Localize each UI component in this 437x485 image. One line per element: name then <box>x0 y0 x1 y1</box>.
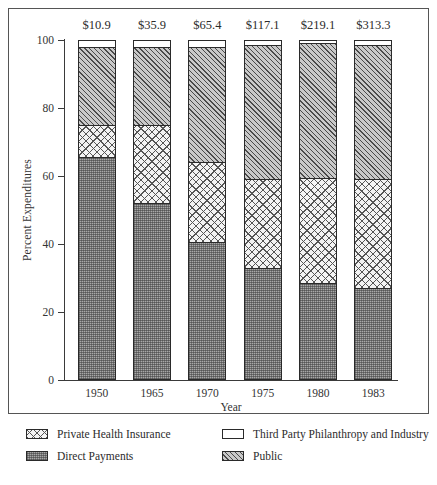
legend-swatch-third <box>222 429 244 439</box>
y-axis-tick: 100 <box>58 40 65 41</box>
bar-segment-private[interactable] <box>188 162 226 242</box>
bar-total-label: $313.3 <box>340 18 406 33</box>
bar-1980[interactable]: $219.11980 <box>299 40 337 380</box>
plot-area: 020406080100 $10.91950$35.91965$65.41970… <box>65 40 397 380</box>
bar-1950[interactable]: $10.91950 <box>78 40 116 380</box>
legend-swatch-public <box>222 451 244 461</box>
bar-segment-third[interactable] <box>188 40 226 47</box>
y-axis-tick-label: 80 <box>43 102 55 114</box>
bar-segment-third[interactable] <box>133 40 171 47</box>
y-axis-tick-label: 40 <box>43 238 55 250</box>
legend-swatch-private <box>26 429 48 439</box>
bar-segment-public[interactable] <box>133 47 171 125</box>
bar-segment-direct[interactable] <box>78 157 116 380</box>
bar-segment-third[interactable] <box>244 40 282 45</box>
bar-1965[interactable]: $35.91965 <box>133 40 171 380</box>
chart-frame: Percent Expenditures 020406080100 $10.91… <box>8 8 429 414</box>
bar-segment-direct[interactable] <box>354 288 392 380</box>
bar-1975[interactable]: $117.11975 <box>244 40 282 380</box>
bar-segment-third[interactable] <box>78 40 116 47</box>
bar-segment-private[interactable] <box>354 179 392 288</box>
bar-segment-direct[interactable] <box>299 283 337 380</box>
bar-segment-private[interactable] <box>299 178 337 283</box>
y-axis-tick: 80 <box>58 108 65 109</box>
bar-segment-direct[interactable] <box>188 242 226 380</box>
legend-label: Public <box>253 450 282 462</box>
bar-segment-third[interactable] <box>299 40 337 43</box>
legend-label: Direct Payments <box>57 450 133 462</box>
bar-segment-public[interactable] <box>78 47 116 125</box>
y-axis-tick-label: 100 <box>37 34 54 46</box>
bar-segment-public[interactable] <box>299 43 337 177</box>
bar-segment-third[interactable] <box>354 40 392 45</box>
y-axis-tick: 20 <box>58 312 65 313</box>
y-axis-tick: 40 <box>58 244 65 245</box>
y-axis-tick: 60 <box>58 176 65 177</box>
legend-column-left: Private Health InsuranceDirect Payments <box>26 425 171 469</box>
y-axis-tick-label: 20 <box>43 306 55 318</box>
bar-segment-private[interactable] <box>78 125 116 157</box>
bar-segment-public[interactable] <box>354 45 392 179</box>
bar-segment-direct[interactable] <box>244 268 282 380</box>
bar-segment-direct[interactable] <box>133 203 171 380</box>
x-axis-title: Year <box>65 401 397 413</box>
y-axis-title: Percent Expenditures <box>21 40 35 380</box>
y-axis-tick-label: 60 <box>43 170 55 182</box>
x-axis-tick-label: 1983 <box>340 387 406 399</box>
legend-item[interactable]: Direct Payments <box>26 447 171 465</box>
legend-item[interactable]: Private Health Insurance <box>26 425 171 443</box>
y-axis-tick: 0 <box>58 380 65 381</box>
bar-segment-private[interactable] <box>133 125 171 203</box>
legend-swatch-direct <box>26 451 48 461</box>
y-axis-tick-label: 0 <box>48 374 54 386</box>
bar-1983[interactable]: $313.31983 <box>354 40 392 380</box>
legend-label: Private Health Insurance <box>57 428 171 440</box>
legend-column-right: Third Party Philanthropy and IndustryPub… <box>222 425 429 469</box>
bar-segment-private[interactable] <box>244 179 282 268</box>
bar-segment-public[interactable] <box>244 45 282 179</box>
legend-label: Third Party Philanthropy and Industry <box>253 428 429 440</box>
legend-item[interactable]: Third Party Philanthropy and Industry <box>222 425 429 443</box>
legend-item[interactable]: Public <box>222 447 429 465</box>
bar-segment-public[interactable] <box>188 47 226 163</box>
x-axis-line <box>64 380 398 381</box>
bar-1970[interactable]: $65.41970 <box>188 40 226 380</box>
